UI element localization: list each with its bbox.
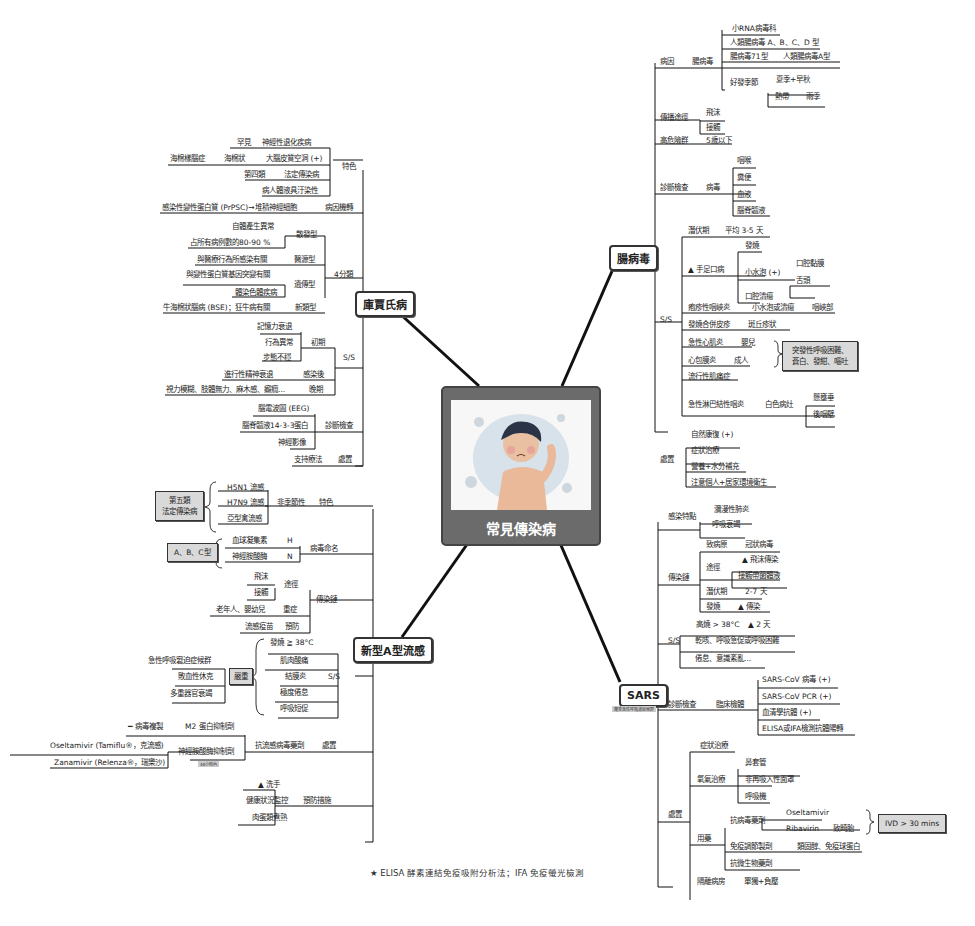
- label: 病因: [660, 57, 674, 67]
- label: 呼吸短促: [280, 704, 308, 714]
- label: S/S: [328, 672, 340, 682]
- label: 接觸: [254, 588, 268, 598]
- sick-child-illustration: [451, 400, 591, 510]
- label: 咽峽部: [812, 303, 833, 313]
- label: 雨季: [806, 92, 820, 102]
- label: 血清學抗體 (+): [762, 708, 812, 718]
- label: N: [287, 552, 293, 562]
- label: 白色病灶: [765, 400, 793, 410]
- node-cjd[interactable]: 庫賈氏病: [355, 291, 415, 317]
- label: S/S: [668, 636, 680, 646]
- label: 人類腸病毒A型: [783, 52, 830, 62]
- label: 單獨+負壓: [744, 877, 778, 887]
- sars-sublabel: 嚴重急性呼吸道症候群: [612, 706, 656, 712]
- label: 亞型禽流感: [227, 514, 262, 524]
- label: 潛伏期: [706, 587, 727, 597]
- label: 急性淋巴結性咽炎: [688, 400, 744, 410]
- label: 病毒複製: [135, 722, 163, 731]
- label: 瀰漫性肺炎: [714, 505, 749, 515]
- label: 致病原: [706, 540, 727, 550]
- label: 傳染鏈: [668, 573, 689, 583]
- label: 免疫調節製劑: [730, 842, 772, 852]
- label: 感染特點: [668, 512, 696, 522]
- label: 傳染: [746, 602, 760, 611]
- label: 與變性蛋白質基因突變有關: [186, 270, 270, 280]
- label: 多重器官衰竭: [170, 689, 212, 699]
- label: ▲ 洗手: [258, 780, 280, 790]
- label: 口腔潰瘍: [745, 292, 773, 302]
- label: 非季節性: [277, 498, 305, 508]
- label: 肉蛋類煮熟: [252, 813, 287, 823]
- label: 診斷檢查: [660, 183, 688, 193]
- label: 平均 3-5 天: [725, 226, 763, 236]
- label: 散發型: [296, 230, 317, 240]
- label: SARS-CoV 病毒 (+): [762, 675, 831, 685]
- label: 遺傳型: [294, 280, 315, 290]
- label: 海棉樣腦症: [170, 154, 205, 164]
- label: 症狀治療: [700, 741, 728, 751]
- node-novel-flu-a[interactable]: 新型A型流感: [353, 637, 433, 663]
- label: ▲ 傳染: [738, 602, 760, 612]
- label: ━ 病毒複製: [128, 722, 163, 732]
- label: 罕見: [237, 138, 251, 148]
- label: 呼吸衰竭: [712, 520, 740, 530]
- label: 倦怠、意識紊亂...: [695, 654, 751, 664]
- label: ▲ 2 天: [748, 620, 770, 630]
- notifiable-class5-box: 第五類 法定傳染病: [155, 491, 204, 521]
- label: 腸病毒: [692, 57, 713, 67]
- label: 流行性肌痛症: [688, 372, 730, 382]
- label: 營養+水分補充: [691, 462, 739, 472]
- label: 處置: [660, 455, 674, 465]
- label: 後咽壁: [813, 410, 834, 420]
- label: 熱帶: [775, 92, 789, 102]
- label: 疱疹性咽峽炎: [688, 303, 730, 313]
- label: 舌頭: [796, 276, 810, 286]
- ivd-box: IVD > 30 mins: [878, 814, 946, 833]
- center-node[interactable]: 常見傳染病: [441, 386, 601, 546]
- label: 處置: [668, 810, 682, 820]
- label: 發燒: [706, 602, 720, 612]
- label: 潛伏期: [688, 226, 709, 236]
- label: 流感疫苗: [245, 622, 273, 632]
- label: 注意個人+居家環境衛生: [691, 478, 767, 488]
- label: 晚期: [309, 385, 323, 395]
- label: H: [287, 536, 293, 546]
- label: 抗微生物藥劑: [730, 859, 772, 869]
- label: 海棉狀: [224, 154, 245, 164]
- label: 臨床檢體: [716, 700, 744, 710]
- label: 體染色體疾病: [235, 288, 277, 298]
- label: 病毒命名: [310, 544, 338, 554]
- label: 用藥: [697, 834, 711, 844]
- node-sars[interactable]: SARS: [619, 684, 668, 707]
- label: 占所有病例數的80-90 %: [190, 238, 270, 248]
- label: 呼吸機: [745, 792, 766, 802]
- label: 步態不穩: [263, 353, 291, 363]
- label: 咽喉: [737, 156, 751, 166]
- label: 夏季+早秋: [776, 75, 810, 85]
- label: 新類型: [295, 303, 316, 313]
- label: 好發季節: [730, 78, 758, 88]
- label: 手足口病: [696, 265, 724, 274]
- label: Oseltamivir: [786, 808, 829, 818]
- label: 處置: [338, 455, 352, 465]
- label: 小水泡 (+): [745, 268, 781, 278]
- label: 口腔黏膜: [796, 259, 824, 269]
- note-box: 突發性呼吸困難、蒼白、發紺、嘔吐: [782, 341, 858, 371]
- label: Zanamivir (Relenza®，瑞樂沙): [54, 758, 165, 768]
- label: 醫源型: [294, 255, 315, 265]
- label: 感染性變性蛋白質 (PrPSC)→堆積神經細胞: [162, 203, 297, 213]
- label: 視力模糊、肢體無力、麻木感、癲癇...: [166, 385, 285, 395]
- node-enterovirus[interactable]: 腸病毒: [609, 245, 658, 271]
- label: 2-7 天: [745, 587, 767, 597]
- 48h-tag: 48小時內: [198, 761, 219, 767]
- label: 飛沫傳染: [750, 555, 778, 564]
- label: 冠狀病毒: [745, 540, 773, 550]
- label: 預防: [285, 622, 299, 632]
- label: 老年人、嬰幼兒: [216, 605, 265, 615]
- label: 腸病毒71型: [730, 52, 768, 62]
- label: 預防措施: [303, 796, 331, 806]
- label: 記憶力衰退: [257, 322, 292, 332]
- label: 健康狀況監控: [246, 796, 288, 806]
- label: 非再吸入性面罩: [745, 775, 794, 785]
- label: 傳染鏈: [316, 595, 337, 605]
